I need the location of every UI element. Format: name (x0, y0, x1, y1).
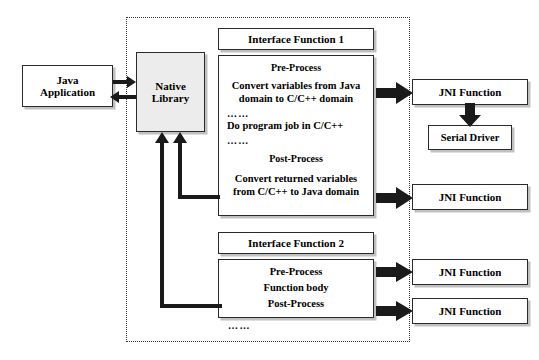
more-interface-functions-indicator: …… (228, 320, 251, 331)
serial-driver-box: Serial Driver (428, 125, 512, 150)
interface-function-2-header: Interface Function 2 (218, 232, 374, 254)
diagram-canvas: Java Application Native Library Interfac… (0, 0, 539, 360)
jni-function-1-label: JNI Function (439, 86, 502, 98)
jni-function-box-4: JNI Function (412, 298, 528, 324)
block-arrow-if2-to-jni4 (376, 301, 414, 321)
jni-function-3-label: JNI Function (439, 266, 502, 278)
elbow-if1-to-native-head (173, 132, 187, 143)
jni-function-4-label: JNI Function (439, 305, 502, 317)
elbow-if1-to-native-vertical (178, 143, 182, 199)
if1-line-ellipsis-2: …… (219, 135, 373, 147)
block-arrow-jni1-to-serial-driver (459, 103, 481, 127)
java-application-label-line1: Java (57, 74, 79, 86)
if1-line-pre-process: Pre-Process (219, 62, 373, 74)
if1-line-convert-back-1: Convert returned variables (219, 173, 373, 185)
jni-function-box-2: JNI Function (412, 184, 528, 210)
interface-function-2-body: Pre-Process Function body Post-Process (218, 259, 374, 318)
elbow-if2-to-native-vertical (160, 143, 164, 308)
arrow-java-to-native-shaft (113, 80, 128, 84)
if1-line-post-process: Post-Process (219, 153, 373, 165)
elbow-if2-to-native-horizontal (160, 304, 222, 308)
if1-line-convert-1: Convert variables from Java (219, 80, 373, 92)
if2-line-post-process: Post-Process (219, 298, 373, 310)
elbow-if1-to-native-horizontal (178, 195, 220, 199)
block-arrow-if1-to-jni1 (376, 82, 414, 104)
arrow-java-to-native-head (127, 76, 136, 88)
arrow-native-to-java-shaft (118, 95, 136, 99)
interface-function-2-header-label: Interface Function 2 (248, 237, 344, 249)
java-application-label-line2: Application (40, 86, 95, 98)
native-library-box: Native Library (136, 52, 205, 132)
interface-function-1-body: Pre-Process Convert variables from Java … (218, 55, 374, 216)
interface-function-1-header-label: Interface Function 1 (248, 33, 344, 45)
if1-line-convert-back-2: from C/C++ to Java domain (219, 186, 373, 198)
native-library-label-line1: Native (155, 80, 186, 92)
jni-function-box-3: JNI Function (412, 259, 528, 285)
native-library-label-line2: Library (152, 92, 189, 104)
block-arrow-if2-to-jni3 (376, 262, 414, 282)
arrow-native-to-java-head (110, 91, 119, 103)
java-application-box: Java Application (22, 65, 113, 107)
serial-driver-label: Serial Driver (441, 132, 500, 144)
jni-function-2-label: JNI Function (439, 191, 502, 203)
if1-line-ellipsis-1: …… (219, 108, 373, 120)
if1-line-do-program-job: Do program job in C/C++ (219, 120, 373, 132)
if2-line-pre-process: Pre-Process (219, 266, 373, 278)
if1-line-convert-2: domain to C/C++ domain (219, 93, 373, 105)
if2-line-function-body: Function body (219, 282, 373, 294)
jni-function-box-1: JNI Function (412, 79, 528, 105)
interface-function-1-header: Interface Function 1 (218, 28, 374, 50)
elbow-if2-to-native-head (155, 132, 169, 143)
block-arrow-if1-to-jni2 (376, 187, 414, 209)
